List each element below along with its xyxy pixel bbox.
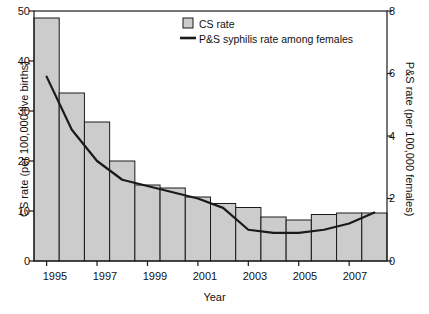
chart-plot-area: [0, 0, 429, 314]
bar-2008: [362, 213, 387, 261]
bar-2006: [311, 215, 336, 262]
bar-2001: [185, 197, 210, 261]
legend-markers: [180, 18, 196, 38]
bar-1995: [34, 18, 59, 261]
bar-1998: [110, 161, 135, 261]
bar-1999: [135, 185, 160, 261]
bar-2005: [286, 220, 311, 261]
bar-2004: [261, 217, 286, 261]
bar-series-cs-rate: [34, 18, 387, 261]
bar-2003: [236, 208, 261, 262]
bar-1997: [84, 122, 109, 261]
bar-2000: [160, 188, 185, 261]
legend-swatch-cs-rate: [183, 18, 193, 28]
bar-2002: [211, 204, 236, 262]
bar-1996: [59, 93, 84, 261]
chart-figure: CS rate (per 100,000 live births) P&S ra…: [0, 0, 429, 314]
